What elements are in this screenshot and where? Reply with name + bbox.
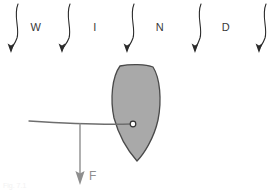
wind-letter-d: D [222, 21, 230, 33]
figure-caption: Fig. 7.1 [3, 182, 26, 190]
wind-arrow-5 [256, 4, 266, 53]
wind-letter-i: I [93, 21, 97, 33]
wind-arrow-3 [124, 4, 134, 53]
force-label: F [89, 169, 96, 183]
wind-force-diagram: W I N D F Fig. 7.1 [0, 0, 269, 191]
pivot-point-icon[interactable] [130, 121, 136, 127]
wind-arrow-1 [8, 4, 18, 53]
wind-letter-n: N [156, 21, 164, 33]
wind-arrow-2 [59, 4, 70, 53]
wind-letter-w: W [31, 21, 42, 33]
vane-blade[interactable] [112, 65, 160, 161]
force-arrow-group: F [75, 124, 96, 185]
diagram-canvas: W I N D F Fig. 7.1 [0, 0, 269, 191]
wind-arrow-4 [192, 4, 201, 53]
